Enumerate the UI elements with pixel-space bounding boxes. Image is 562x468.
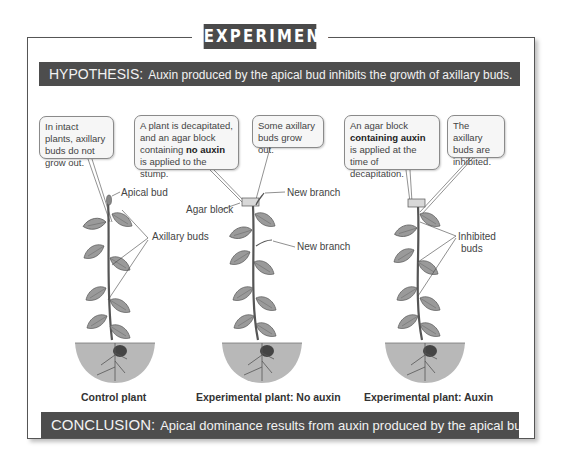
auxin-plant bbox=[385, 199, 465, 383]
callout-auxin-result-text: The axillary buds are inhibited. bbox=[453, 120, 491, 167]
callout-auxin-setup: An agar block containing auxin is applie… bbox=[344, 115, 440, 170]
callout-no-auxin-result: Some axillary buds grow out. bbox=[252, 115, 324, 148]
callout-text-bold: no auxin bbox=[186, 144, 225, 155]
callout-auxin-result: The axillary buds are inhibited. bbox=[447, 115, 505, 158]
callout-text-pre: An agar block bbox=[350, 120, 408, 131]
callout-control: In intact plants, axillary buds do not g… bbox=[39, 116, 114, 159]
no-auxin-plant bbox=[220, 192, 302, 383]
control-plant bbox=[75, 192, 155, 383]
plants-illustration bbox=[0, 0, 562, 468]
callout-text-bold: containing auxin bbox=[350, 132, 425, 143]
experiment-title: EXPERIMENT bbox=[204, 24, 317, 49]
callout-no-auxin-setup: A plant is decapitated, and an agar bloc… bbox=[134, 115, 239, 170]
